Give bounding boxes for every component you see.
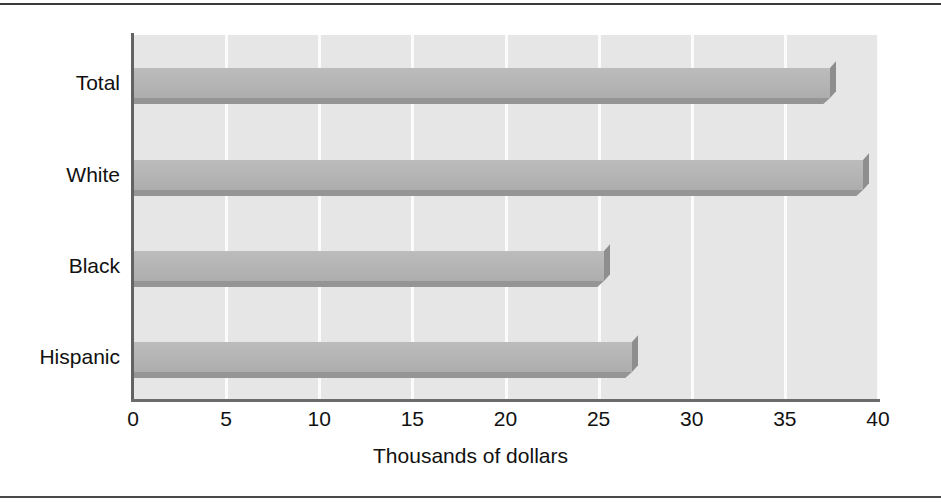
x-tick-label-0: 0 <box>103 408 163 429</box>
bar-shadow-right <box>863 153 869 190</box>
bar-hispanic <box>133 342 632 372</box>
category-label-total: Total <box>0 72 120 93</box>
figure-panel: TotalWhiteBlackHispanic Thousands of dol… <box>0 0 941 503</box>
x-axis-spine <box>131 399 880 402</box>
bar-shadow-bottom <box>133 98 830 104</box>
x-tick-label-10: 10 <box>289 408 349 429</box>
bar-shadow-bottom <box>133 372 632 378</box>
plot-area <box>133 35 878 400</box>
bar-shadow-right <box>604 244 610 281</box>
bar-shadow-right <box>830 62 836 99</box>
x-tick-label-35: 35 <box>755 408 815 429</box>
bar-white <box>133 160 863 190</box>
category-label-black: Black <box>0 255 120 276</box>
category-label-white: White <box>0 164 120 185</box>
x-tick-label-20: 20 <box>476 408 536 429</box>
bar-total <box>133 68 830 98</box>
bar-shadow-bottom <box>133 281 604 287</box>
x-axis-title: Thousands of dollars <box>0 444 941 468</box>
x-tick-label-30: 30 <box>662 408 722 429</box>
x-tick-label-40: 40 <box>848 408 908 429</box>
gridline-40 <box>877 35 878 400</box>
x-tick-label-5: 5 <box>196 408 256 429</box>
top-divider-rule <box>0 3 941 5</box>
bottom-divider-rule <box>0 496 941 498</box>
category-label-hispanic: Hispanic <box>0 346 120 367</box>
x-tick-label-15: 15 <box>382 408 442 429</box>
x-tick-label-25: 25 <box>569 408 629 429</box>
bar-shadow-right <box>632 335 638 372</box>
y-axis-category-labels: TotalWhiteBlackHispanic <box>0 0 120 503</box>
y-axis-spine <box>131 33 134 402</box>
bar-black <box>133 251 604 281</box>
bar-shadow-bottom <box>133 190 863 196</box>
